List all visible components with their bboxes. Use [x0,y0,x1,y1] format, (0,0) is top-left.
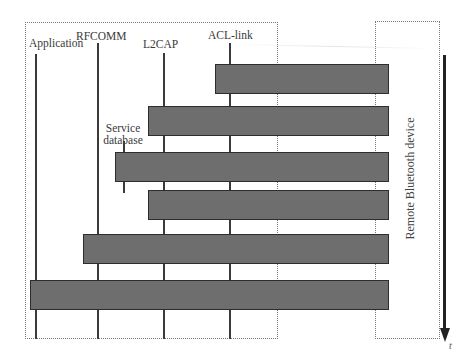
label-time-axis: t [449,340,452,351]
time-arrow-shaft [443,55,446,332]
time-arrow-head-icon [440,328,450,342]
label-acl-link: ACL-link [208,30,253,42]
label-remote-bluetooth-device: Remote Bluetooth device [403,114,418,244]
message-bar-4-l2cap [148,190,389,220]
label-rfcomm: RFCOMM [76,31,127,43]
message-bar-1-acl-link [215,64,389,94]
message-bar-3-service-database [115,152,389,182]
service-database-line1: Service [100,122,146,134]
message-bar-6-application [30,280,389,310]
message-bar-2-l2cap [148,106,389,136]
label-l2cap: L2CAP [143,39,178,51]
message-bar-5-rfcomm [83,234,389,264]
